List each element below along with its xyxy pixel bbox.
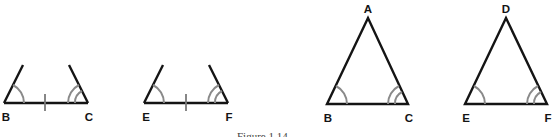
panel-partial-bc: B C	[2, 65, 93, 123]
angle-arc-f-inner	[215, 91, 222, 103]
triangle-def	[465, 18, 547, 104]
vertex-label-f: F	[225, 111, 232, 123]
vertex-label-b: B	[324, 112, 332, 124]
panel-partial-ef: E F	[142, 65, 232, 123]
angle-arc-b-single	[13, 85, 24, 103]
vertex-label-c: C	[85, 111, 93, 123]
angle-arc-b-single	[336, 86, 347, 104]
vertex-label-c: C	[405, 112, 413, 124]
vertex-label-f: F	[544, 112, 551, 124]
vertex-label-e: E	[462, 112, 470, 124]
angle-arc-c-inner	[75, 91, 82, 103]
ray-from-b	[4, 65, 23, 103]
ray-from-c	[69, 65, 88, 103]
figure-caption: Figure 1.14	[237, 130, 288, 137]
ray-from-e	[144, 65, 163, 103]
vertex-label-a: A	[364, 3, 372, 15]
panel-triangle-def: D E F	[462, 3, 551, 124]
angle-arc-c-inner	[395, 92, 402, 104]
vertex-label-e: E	[142, 111, 150, 123]
panel-triangle-abc: A B C	[324, 3, 413, 124]
triangle-abc	[327, 18, 408, 104]
congruent-triangles-diagram: B C E F A B C D E F Figure 1.14	[0, 0, 552, 137]
vertex-label-d: D	[502, 3, 510, 15]
ray-from-f	[209, 65, 228, 103]
angle-arc-e-single	[474, 86, 485, 104]
vertex-label-b: B	[2, 111, 10, 123]
angle-arc-f-inner	[534, 92, 541, 104]
angle-arc-e-single	[153, 85, 164, 103]
